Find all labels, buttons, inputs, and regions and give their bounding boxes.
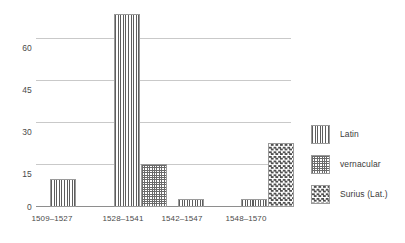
y-axis: 60 45 30 15 0 bbox=[0, 10, 32, 207]
y-tick-label: 0 bbox=[2, 202, 32, 212]
legend-item-latin: Latin bbox=[311, 122, 403, 146]
bar-vernacular-1528-1541 bbox=[141, 164, 167, 207]
x-tick-label-1548-1570: 1548–1570 bbox=[216, 214, 276, 223]
bar-surius-lat-1548-1570 bbox=[268, 143, 294, 207]
legend-label-surius: Surius (Lat.) bbox=[340, 189, 388, 199]
y-tick-label: 45 bbox=[2, 85, 32, 95]
y-tick-label: 15 bbox=[2, 169, 32, 179]
bar-latin-1509-1527 bbox=[50, 179, 76, 207]
dotted-checker-swatch-icon bbox=[311, 185, 330, 204]
vertical-stripes-swatch-icon bbox=[311, 125, 330, 144]
legend-label-latin: Latin bbox=[340, 129, 359, 139]
x-tick-label-1509-1527: 1509–1527 bbox=[22, 214, 82, 223]
y-tick-label: 30 bbox=[2, 127, 32, 137]
bar-chart: 60 45 30 15 0 1509–1527 1528–1541 1542–1… bbox=[0, 0, 405, 243]
x-tick-label-1528-1541: 1528–1541 bbox=[93, 214, 153, 223]
gridline-30 bbox=[36, 122, 291, 123]
bar-latin-1548-1570 bbox=[241, 199, 267, 207]
plot-area bbox=[36, 10, 291, 207]
legend-item-surius: Surius (Lat.) bbox=[311, 182, 403, 206]
x-tick-label-1542-1547: 1542–1547 bbox=[152, 214, 212, 223]
y-tick-label: 60 bbox=[2, 43, 32, 53]
legend: Latin vernacular Surius (Lat.) bbox=[311, 122, 403, 212]
legend-item-vernacular: vernacular bbox=[311, 152, 403, 176]
cross-hatch-swatch-icon bbox=[311, 155, 330, 174]
gridline-45 bbox=[36, 80, 291, 81]
bar-latin-1542-1547 bbox=[178, 199, 204, 207]
bar-latin-1528-1541 bbox=[114, 14, 140, 207]
gridline-60 bbox=[36, 38, 291, 39]
legend-label-vernacular: vernacular bbox=[340, 159, 381, 169]
